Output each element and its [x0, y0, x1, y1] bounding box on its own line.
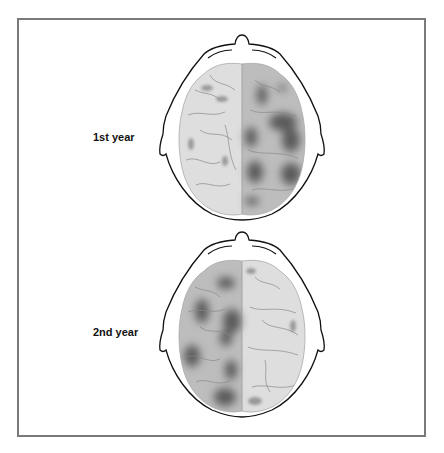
lesion: [248, 397, 262, 405]
brain-bottom: [170, 252, 316, 422]
lesion: [217, 277, 235, 289]
lesion: [223, 309, 241, 333]
lesion: [214, 388, 236, 406]
lesion: [278, 85, 286, 91]
lesion: [245, 197, 259, 205]
lesion: [246, 268, 256, 274]
brain-illustration: [0, 0, 444, 453]
brow-arc-right: [252, 246, 276, 254]
brow-arc-left: [208, 246, 232, 254]
panel-2nd-year: [160, 232, 325, 422]
panel-1st-year: [160, 35, 325, 225]
lesion: [225, 360, 237, 380]
brow-arc-right: [252, 50, 276, 58]
lesion: [222, 156, 228, 166]
lesion: [220, 330, 232, 346]
lesion: [247, 161, 263, 183]
lesion: [290, 320, 296, 332]
lesion: [188, 138, 194, 150]
lesion: [216, 96, 228, 102]
lesion: [201, 85, 213, 91]
lesion: [282, 128, 300, 152]
left-hemisphere: [170, 55, 244, 225]
lesion: [245, 127, 257, 147]
brow-arc-left: [208, 50, 232, 58]
lesion: [257, 85, 267, 105]
